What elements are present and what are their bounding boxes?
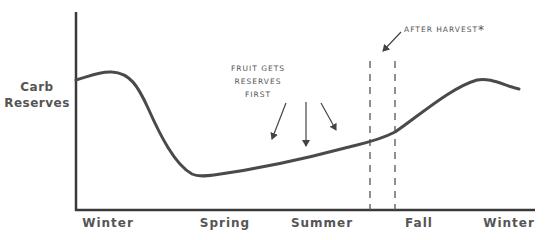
y-axis-label-line2: Reserves (4, 95, 70, 111)
fruit-reserves-annotation: FRUIT GETS RESERVES FIRST (218, 62, 298, 101)
y-axis-label: Carb Reserves (4, 79, 70, 111)
fruit-annotation-line2: RESERVES (218, 75, 298, 88)
carb-reserves-diagram: Carb Reserves Winter Spring Summer Fall … (0, 0, 550, 240)
x-tick-winter-start: Winter (82, 216, 134, 230)
fruit-arrow-right (321, 103, 336, 130)
fruit-annotation-line3: FIRST (218, 88, 298, 101)
after-harvest-text: AFTER HARVEST (404, 25, 478, 34)
x-tick-winter-end: Winter (483, 216, 535, 230)
harvest-arrow (383, 32, 401, 51)
x-tick-spring: Spring (200, 216, 250, 230)
after-harvest-annotation: AFTER HARVEST* (404, 23, 485, 37)
fruit-arrow-left (272, 103, 286, 139)
x-tick-summer: Summer (291, 216, 353, 230)
fruit-annotation-line1: FRUIT GETS (218, 62, 298, 75)
x-tick-fall: Fall (405, 216, 433, 230)
asterisk-marker: * (478, 23, 485, 37)
y-axis-label-line1: Carb (4, 79, 70, 95)
